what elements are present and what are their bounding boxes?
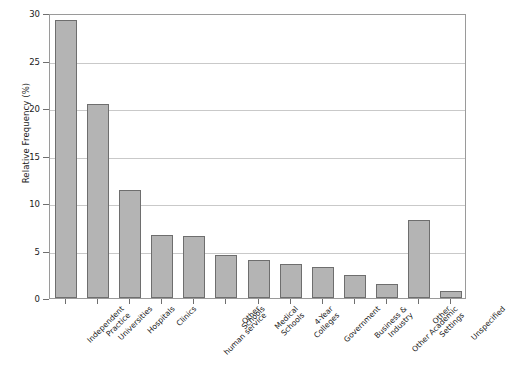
x-axis-tick-label: Unspecified bbox=[470, 305, 507, 342]
x-axis-tick-label: Clinics bbox=[175, 305, 198, 328]
x-axis-tick-label: Government bbox=[343, 305, 383, 345]
x-axis-tick-label: 4-YearColleges bbox=[306, 305, 341, 340]
x-axis-tick-label: MedicalSchools bbox=[273, 305, 306, 338]
